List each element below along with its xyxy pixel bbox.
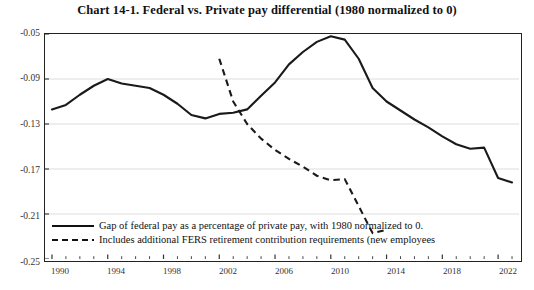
x-tick-label-4: 2006	[275, 266, 293, 276]
legend-item-solid: Gap of federal pay as a percentage of pr…	[52, 219, 435, 233]
legend-swatch-dashed-icon	[52, 234, 94, 246]
legend-label-dashed: Includes additional FERS retirement cont…	[99, 233, 435, 247]
legend: Gap of federal pay as a percentage of pr…	[52, 219, 435, 247]
y-tick-label-1: -0.09	[2, 73, 40, 83]
x-tick-label-1: 1994	[107, 266, 125, 276]
chart-title: Chart 14-1. Federal vs. Private pay diff…	[0, 3, 534, 18]
x-tick-label-7: 2018	[443, 266, 461, 276]
x-axis-ticks	[52, 255, 512, 260]
gridlines	[45, 79, 519, 214]
y-tick-label-3: -0.17	[2, 165, 40, 175]
x-tick-label-5: 2010	[331, 266, 349, 276]
x-tick-label-8: 2022	[499, 266, 517, 276]
y-axis-ticks	[45, 34, 49, 259]
y-tick-label-2: -0.13	[2, 119, 40, 129]
y-tick-label-0: -0.05	[2, 28, 40, 38]
y-tick-label-5: -0.25	[2, 257, 40, 267]
legend-swatch-solid-icon	[52, 220, 94, 232]
y-tick-label-4: -0.21	[2, 211, 40, 221]
series-line-dashed	[219, 59, 386, 233]
x-tick-label-6: 2014	[387, 266, 405, 276]
x-tick-label-3: 2002	[219, 266, 237, 276]
series-line-solid	[52, 36, 512, 182]
x-tick-label-0: 1990	[51, 266, 69, 276]
legend-item-dashed: Includes additional FERS retirement cont…	[52, 233, 435, 247]
legend-label-solid: Gap of federal pay as a percentage of pr…	[99, 219, 423, 233]
x-tick-label-2: 1998	[163, 266, 181, 276]
chart-container: Chart 14-1. Federal vs. Private pay diff…	[0, 0, 534, 290]
